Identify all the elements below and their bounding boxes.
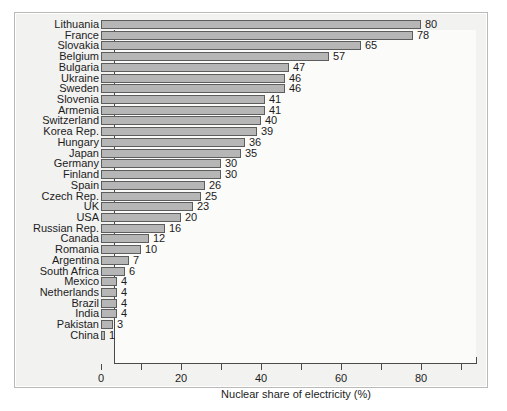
- x-tick-20: [181, 364, 182, 370]
- x-tick-label-20: 20: [175, 372, 187, 384]
- bar: [101, 245, 141, 254]
- bar-value-label: 57: [333, 51, 345, 62]
- bar: [101, 106, 265, 115]
- x-tick-label-80: 80: [415, 372, 427, 384]
- bar-value-label: 35: [245, 148, 257, 159]
- x-tick-60: [341, 364, 342, 370]
- bar-value-label: 20: [185, 212, 197, 223]
- chart-figure: Lithuania80France78Slovakia65Belgium57Bu…: [0, 0, 507, 411]
- bar-value-label: 65: [365, 40, 377, 51]
- bar: [101, 95, 265, 104]
- bar: [101, 320, 113, 329]
- bar: [101, 127, 257, 136]
- x-axis-title: Nuclear share of electricity (%): [115, 388, 477, 400]
- bar: [101, 288, 117, 297]
- bar: [101, 234, 149, 243]
- x-tick-0: [101, 364, 102, 370]
- bar: [101, 31, 413, 40]
- bar: [101, 299, 117, 308]
- bar-value-label: 16: [169, 223, 181, 234]
- bar-value-label: 39: [261, 126, 273, 137]
- x-tick-30: [221, 364, 222, 370]
- bar: [101, 309, 117, 318]
- bar: [101, 277, 117, 286]
- bar: [101, 267, 125, 276]
- x-tick-90: [461, 364, 462, 370]
- bar: [101, 224, 165, 233]
- x-tick-80: [421, 364, 422, 370]
- x-tick-50: [301, 364, 302, 370]
- x-tick-70: [381, 364, 382, 370]
- bar-value-label: 30: [225, 169, 237, 180]
- bar: [101, 84, 285, 93]
- x-tick-10: [141, 364, 142, 370]
- bar: [101, 170, 221, 179]
- bar: [101, 159, 221, 168]
- x-tick-label-0: 0: [98, 372, 104, 384]
- bar: [101, 52, 329, 61]
- bar-label: China: [15, 330, 99, 341]
- bar: [101, 149, 241, 158]
- bar-value-label: 23: [197, 201, 209, 212]
- bar-value-label: 46: [289, 83, 301, 94]
- x-axis-end-cap: [476, 357, 477, 364]
- bar-value-label: 3: [117, 319, 123, 330]
- bar-value-label: 1: [109, 330, 115, 341]
- bar: [101, 331, 105, 340]
- x-tick-label-40: 40: [255, 372, 267, 384]
- bar: [101, 181, 205, 190]
- bar: [101, 213, 181, 222]
- x-tick-label-60: 60: [335, 372, 347, 384]
- bar: [101, 202, 193, 211]
- x-axis-line: [114, 363, 477, 364]
- bar: [101, 116, 261, 125]
- bar: [101, 63, 289, 72]
- chart-panel: Lithuania80France78Slovakia65Belgium57Bu…: [14, 12, 488, 388]
- bar: [101, 138, 245, 147]
- bar: [101, 256, 129, 265]
- x-tick-40: [261, 364, 262, 370]
- bar-value-label: 6: [129, 266, 135, 277]
- bar-value-label: 10: [145, 244, 157, 255]
- bar: [101, 20, 421, 29]
- bar-value-label: 78: [417, 30, 429, 41]
- bar: [101, 192, 201, 201]
- bar: [101, 41, 361, 50]
- bar: [101, 74, 285, 83]
